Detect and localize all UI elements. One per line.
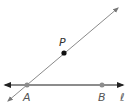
label-b: B [98, 92, 106, 103]
point-b [100, 83, 105, 88]
point-a [25, 83, 30, 88]
point-p [61, 50, 66, 55]
label-a: A [23, 92, 31, 103]
geometry-diagram [0, 0, 132, 107]
label-p: P [59, 37, 66, 48]
label-line-l: ℓ [120, 92, 125, 103]
